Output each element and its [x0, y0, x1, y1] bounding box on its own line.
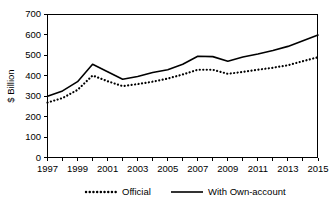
chart-legend: Official With Own-account — [86, 186, 286, 197]
x-axis-ticks — [48, 158, 319, 162]
legend-label-with-own-account: With Own-account — [208, 186, 286, 197]
line-chart: 0100200300400500600700 19971999200120032… — [0, 0, 334, 208]
chart-canvas: 0100200300400500600700 19971999200120032… — [0, 0, 334, 208]
y-tick-label: 500 — [25, 49, 41, 60]
y-axis-tick-labels: 0100200300400500600700 — [25, 8, 41, 163]
x-tick-label: 2013 — [277, 163, 298, 174]
x-tick-label: 2009 — [217, 163, 238, 174]
series-line-with-own-account — [48, 35, 319, 96]
x-tick-label: 1999 — [67, 163, 88, 174]
y-axis-ticks — [44, 14, 48, 158]
y-axis-title: $ Billion — [5, 69, 16, 102]
x-tick-label: 2005 — [157, 163, 178, 174]
series-group — [48, 35, 319, 102]
y-tick-label: 400 — [25, 70, 41, 81]
y-tick-label: 0 — [36, 152, 41, 163]
x-tick-label: 2015 — [307, 163, 328, 174]
x-tick-label: 1997 — [37, 163, 58, 174]
x-tick-label: 2001 — [97, 163, 118, 174]
y-tick-label: 300 — [25, 90, 41, 101]
x-tick-label: 2011 — [248, 163, 268, 174]
y-tick-label: 700 — [25, 8, 41, 19]
y-tick-label: 600 — [25, 29, 41, 40]
y-tick-label: 200 — [25, 111, 41, 122]
x-tick-label: 2007 — [187, 163, 208, 174]
legend-label-official: Official — [122, 186, 151, 197]
y-tick-label: 100 — [25, 131, 41, 142]
plot-axes — [47, 14, 318, 158]
x-tick-label: 2003 — [127, 163, 148, 174]
x-axis-tick-labels: 1997199920012003200520072009201120132015 — [37, 163, 329, 174]
